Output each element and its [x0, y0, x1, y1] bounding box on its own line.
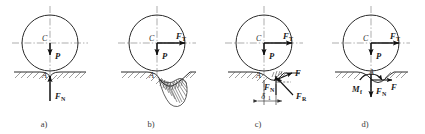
panel-b-contact-label: A	[148, 71, 154, 80]
panel-c-offset-subscript: 1	[268, 95, 271, 101]
panel-c-traction-force-subscript: T	[289, 36, 293, 42]
panel-a-caption: a)	[41, 119, 48, 129]
panel-d-friction-force-label: F	[390, 82, 397, 92]
panel-b-center-label: C	[149, 34, 155, 43]
panel-a-normal-force-label: F	[54, 91, 61, 101]
panel-d-weight-label: P	[376, 51, 382, 61]
panel-c-resultant-reaction-label: F	[295, 91, 302, 101]
panel-a-center-label: C	[42, 34, 48, 43]
panel-d-center-label: C	[363, 34, 369, 43]
panel-d-traction-force-label: F	[389, 31, 396, 41]
panel-a-contact-label: A	[41, 71, 47, 80]
panel-c-weight-label: P	[269, 51, 275, 61]
panel-b-weight-label: P	[162, 51, 168, 61]
panel-d-caption: d)	[361, 119, 368, 129]
panel-c-offset-symbol: δ	[261, 92, 265, 101]
panel-c-traction-force-label: F	[282, 31, 289, 41]
panel-a-weight-label: P	[55, 51, 61, 61]
panel-d-traction-force-subscript: T	[396, 36, 400, 42]
rolling-resistance-figure: C A P F N a)	[0, 0, 425, 134]
panel-c-contact-label: A	[255, 71, 261, 80]
panel-c-friction-force-label: F	[294, 68, 301, 78]
panel-b-traction-force-subscript: T	[182, 36, 186, 42]
panel-d-normal-force-subscript: N	[382, 91, 387, 97]
panel-b-traction-force-label: F	[175, 31, 182, 41]
figure-canvas: C A P F N a)	[0, 0, 425, 134]
panel-c-caption: c)	[255, 119, 262, 129]
panel-c-normal-force-subscript: N	[270, 87, 275, 93]
panel-a-normal-force-subscript: N	[61, 96, 66, 102]
panel-b-caption: b)	[147, 119, 154, 129]
panel-c-center-label: C	[256, 34, 262, 43]
panel-c-resultant-reaction-subscript: R	[302, 96, 307, 102]
panel-d-moment-label: M	[351, 84, 360, 94]
panel-d-normal-force-label: F	[375, 86, 382, 96]
